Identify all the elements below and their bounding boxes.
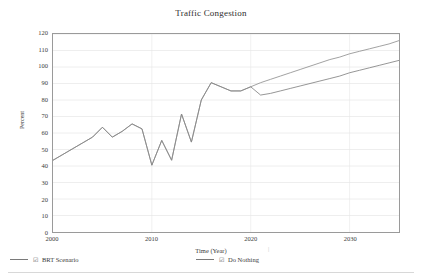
x-tick-label: 2000 (46, 235, 59, 242)
legend-line-swatch-brt (10, 259, 28, 260)
chart-legend: ☑ BRT Scenario ☑ Do Nothing (0, 256, 422, 270)
y-axis-tick-labels: 0102030405060708090100110120 (22, 33, 48, 233)
plot-canvas (53, 34, 399, 232)
y-tick-label: 40 (24, 163, 48, 170)
chart-title: Traffic Congestion (0, 8, 422, 18)
bottom-divider (8, 272, 414, 273)
y-axis-title: Percent (19, 90, 25, 150)
y-tick-label: 0 (24, 230, 48, 237)
y-tick-label: 110 (24, 46, 48, 53)
y-tick-label: 90 (24, 80, 48, 87)
legend-item-do-nothing[interactable]: ☑ Do Nothing (196, 256, 259, 263)
x-tick-label: 2010 (145, 235, 158, 242)
y-tick-label: 60 (24, 130, 48, 137)
y-tick-label: 100 (24, 63, 48, 70)
y-tick-label: 20 (24, 196, 48, 203)
checkbox-icon[interactable]: ☑ (219, 256, 224, 263)
legend-item-brt-scenario[interactable]: ☑ BRT Scenario (10, 256, 79, 263)
y-tick-label: 10 (24, 213, 48, 220)
y-tick-label: 30 (24, 180, 48, 187)
chart-page: Traffic Congestion 010203040506070809010… (0, 0, 422, 276)
stray-tick-mark: | (268, 246, 269, 252)
y-tick-label: 120 (24, 30, 48, 37)
x-tick-label: 2030 (344, 235, 357, 242)
legend-line-swatch-do-nothing (196, 259, 214, 260)
series-line-do-nothing (53, 41, 399, 166)
y-tick-label: 50 (24, 146, 48, 153)
x-axis-tick-labels: 2000201020202030 (52, 235, 400, 247)
x-axis-title: Time (Year) (0, 247, 422, 254)
y-tick-label: 80 (24, 96, 48, 103)
legend-label-do-nothing: Do Nothing (228, 256, 259, 263)
y-tick-label: 70 (24, 113, 48, 120)
checkbox-icon[interactable]: ☑ (33, 256, 38, 263)
legend-label-brt-scenario: BRT Scenario (42, 256, 79, 263)
plot-area (52, 33, 400, 233)
x-tick-label: 2020 (244, 235, 257, 242)
